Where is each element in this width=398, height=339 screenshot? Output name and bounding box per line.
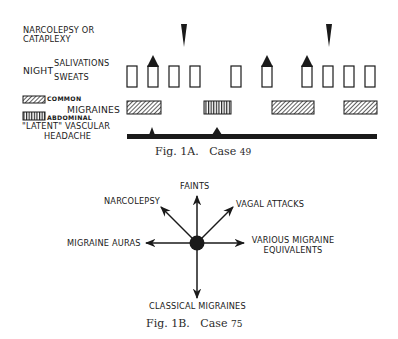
label-classical-migraines: CLASSICAL MIGRAINES	[149, 302, 246, 310]
label-various-line2: EQUIVALENTS	[251, 246, 335, 254]
fig-1b-caption-number: 75	[231, 319, 242, 329]
fig-1b-caption: Fig. 1B. Case 75	[146, 318, 242, 329]
fig-1b-caption-case: Case	[200, 317, 227, 330]
fig-1b-caption-prefix: Fig. 1B.	[146, 317, 190, 330]
label-various-line1: VARIOUS MIGRAINE	[251, 236, 335, 244]
arrow-vagal-attacks	[197, 207, 233, 243]
label-faints: FAINTS	[180, 182, 210, 190]
label-various-migraine-equivalents: VARIOUS MIGRAINE EQUIVALENTS	[251, 236, 335, 254]
label-narcolepsy: NARCOLEPSY	[104, 197, 160, 205]
label-vagal-attacks: VAGAL ATTACKS	[236, 200, 304, 208]
center-node	[190, 236, 205, 251]
label-migraine-auras: MIGRAINE AURAS	[67, 239, 141, 247]
arrow-narcolepsy	[161, 207, 197, 243]
fig-1b-star-diagram	[0, 0, 398, 339]
